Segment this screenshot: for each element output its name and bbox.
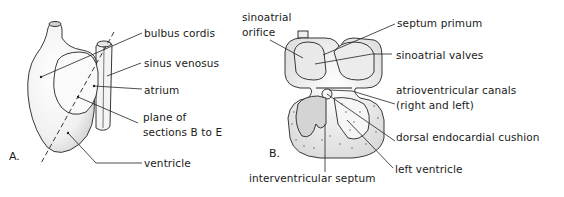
right-atrium-cavity [294,42,326,80]
label-sinoatrial-orifice-line2: orifice [242,26,275,38]
diagram-canvas [0,0,564,197]
label-sinus-venosus: sinus venosus [144,57,219,69]
panel-b-letter: B. [269,147,280,160]
panel-a-letter: A. [9,150,20,163]
label-av-canals-line1: atrioventricular canals [396,84,516,96]
label-septum-primum: septum primum [397,17,482,29]
label-dorsal-endocardial-cushion: dorsal endocardial cushion [396,131,540,143]
label-plane-line1: plane of [143,111,186,123]
label-atrium: atrium [144,84,179,96]
label-bulbus-cordis: bulbus cordis [144,27,215,39]
label-plane-line2: sections B to E [143,126,222,138]
label-sinoatrial-orifice-line1: sinoatrial [242,11,292,23]
label-ventricle: ventricle [144,157,191,169]
heart-external-drawing [28,22,112,153]
label-sinoatrial-valves: sinoatrial valves [396,49,483,61]
label-left-ventricle: left ventricle [395,163,463,175]
label-interventricular-septum: interventricular septum [249,172,375,184]
label-av-canals-line2: (right and left) [396,99,474,111]
